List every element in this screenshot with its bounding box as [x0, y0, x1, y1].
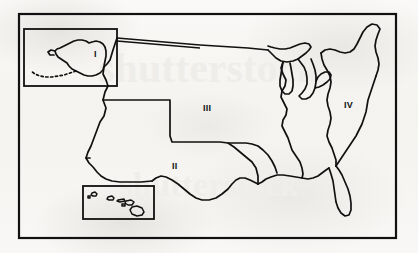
alaska-inset-box [24, 29, 117, 86]
hawaii-island-oahu [107, 196, 114, 200]
hawaii-island-maui [125, 200, 134, 205]
hawaii-island-hawaii [130, 206, 144, 216]
michigan-peninsula-outline [298, 59, 316, 99]
west-coast-outline [86, 38, 152, 182]
region-two-three-divide [103, 100, 258, 184]
alaska-region-label: I [94, 50, 97, 59]
southwest-region-label: II [172, 162, 178, 171]
lake-superior-outline [268, 43, 311, 62]
northern-border-line [117, 38, 268, 50]
alaska-inlet-detail [48, 50, 55, 55]
northeast-region-label: IV [344, 101, 353, 110]
mississippi-river-divide [281, 62, 303, 178]
central-region-label: III [203, 104, 211, 113]
alaska-outline [55, 40, 106, 76]
southwest-border-outline [152, 176, 258, 200]
hawaii-island-niihau [88, 196, 90, 198]
region-four-west-boundary [321, 53, 336, 166]
aleutian-islands-chain [31, 71, 76, 77]
map-figure: shutterstock shutterstock [0, 0, 418, 253]
northeast-coast-outline [321, 24, 380, 76]
hawaii-island-kauai [91, 192, 97, 196]
hawaii-island-molokai [117, 199, 125, 202]
hawaii-island-lanai [122, 204, 125, 206]
map-border [19, 14, 396, 238]
map-artwork [0, 0, 418, 253]
florida-peninsula-outline [329, 166, 351, 216]
atlantic-coast-outline [336, 76, 376, 166]
gulf-coast-outline [258, 168, 329, 184]
